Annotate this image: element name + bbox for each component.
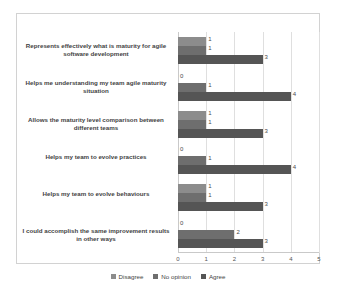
bar-value-label: 0 [180, 72, 183, 81]
bar-group: Allows the maturity level comparison bet… [178, 111, 319, 138]
category-label: I could accomplish the same improvement … [22, 227, 170, 243]
gridline-2 [234, 32, 235, 253]
bar-group: Helps my team to evolve behaviours113 [178, 184, 319, 211]
legend-label: Agree [209, 273, 226, 280]
bar-value-label: 1 [208, 109, 211, 118]
bar-disagree[interactable] [178, 111, 206, 120]
bar-group: I could accomplish the same improvement … [178, 221, 319, 248]
bar-agree[interactable] [178, 239, 263, 248]
gridline-0 [178, 32, 179, 253]
bar-row: 3 [178, 55, 319, 64]
gridline-1 [206, 32, 207, 253]
gridline-3 [263, 32, 264, 253]
bar-value-label: 3 [265, 237, 268, 246]
bar-value-label: 1 [208, 154, 211, 163]
bar-row: 1 [178, 46, 319, 55]
chart-legend: DisagreeNo opinionAgree [17, 273, 319, 280]
bar-value-label: 1 [208, 35, 211, 44]
category-label: Helps my team to evolve behaviours [22, 190, 170, 198]
bar-agree[interactable] [178, 165, 291, 174]
bar-value-label: 1 [208, 81, 211, 90]
bar-row: 1 [178, 111, 319, 120]
bar-row: 2 [178, 230, 319, 239]
category-label: Represents effectively what is maturity … [22, 42, 170, 58]
bar-no-opinion[interactable] [178, 46, 206, 55]
bar-disagree[interactable] [178, 37, 206, 46]
category-label: Helps my team to evolve practices [22, 153, 170, 161]
x-tick-2: 2 [233, 256, 236, 262]
bar-row: 1 [178, 156, 319, 165]
legend-label: Disagree [119, 273, 144, 280]
bar-agree[interactable] [178, 129, 263, 138]
x-tick-5: 5 [317, 256, 320, 262]
x-tick-4: 4 [289, 256, 292, 262]
bar-value-label: 1 [208, 118, 211, 127]
bar-group: Represents effectively what is maturity … [178, 37, 319, 64]
legend-label: No opinion [161, 273, 191, 280]
bar-agree[interactable] [178, 202, 263, 211]
bar-row: 1 [178, 184, 319, 193]
bar-no-opinion[interactable] [178, 230, 234, 239]
bar-row: 0 [178, 147, 319, 156]
bar-row: 1 [178, 120, 319, 129]
plot-area: Represents effectively what is maturity … [178, 32, 319, 253]
bar-row: 1 [178, 37, 319, 46]
bar-group: Helps me understanding my team agile mat… [178, 74, 319, 101]
bar-value-label: 2 [236, 228, 239, 237]
legend-swatch-icon [153, 274, 158, 279]
x-axis-line [178, 252, 319, 253]
x-tick-0: 0 [176, 256, 179, 262]
bar-row: 3 [178, 129, 319, 138]
bar-row: 0 [178, 221, 319, 230]
bar-agree[interactable] [178, 55, 263, 64]
bar-row: 0 [178, 74, 319, 83]
bar-value-label: 4 [293, 90, 296, 99]
legend-item-agree[interactable]: Agree [201, 273, 226, 280]
chart-frame: Represents effectively what is maturity … [16, 13, 320, 264]
bar-row: 3 [178, 202, 319, 211]
bar-row: 4 [178, 92, 319, 101]
bar-disagree[interactable] [178, 184, 206, 193]
legend-item-no-opinion[interactable]: No opinion [153, 273, 191, 280]
bar-value-label: 3 [265, 127, 268, 136]
bar-value-label: 3 [265, 200, 268, 209]
bar-no-opinion[interactable] [178, 120, 206, 129]
x-tick-1: 1 [205, 256, 208, 262]
legend-swatch-icon [111, 274, 116, 279]
bar-no-opinion[interactable] [178, 156, 206, 165]
category-label: Helps me understanding my team agile mat… [22, 79, 170, 95]
bar-value-label: 1 [208, 182, 211, 191]
bar-value-label: 1 [208, 191, 211, 200]
bar-value-label: 3 [265, 53, 268, 62]
legend-swatch-icon [201, 274, 206, 279]
legend-item-disagree[interactable]: Disagree [111, 273, 144, 280]
x-tick-3: 3 [261, 256, 264, 262]
bar-row: 1 [178, 83, 319, 92]
gridline-4 [291, 32, 292, 253]
bar-agree[interactable] [178, 92, 291, 101]
bar-row: 1 [178, 193, 319, 202]
bar-value-label: 4 [293, 163, 296, 172]
gridline-5 [319, 32, 320, 253]
bar-row: 4 [178, 165, 319, 174]
bar-group: Helps my team to evolve practices014 [178, 147, 319, 174]
category-label: Allows the maturity level comparison bet… [22, 116, 170, 132]
bar-value-label: 0 [180, 145, 183, 154]
bar-value-label: 1 [208, 44, 211, 53]
bar-value-label: 0 [180, 219, 183, 228]
bar-row: 3 [178, 239, 319, 248]
bar-no-opinion[interactable] [178, 83, 206, 92]
bar-no-opinion[interactable] [178, 193, 206, 202]
